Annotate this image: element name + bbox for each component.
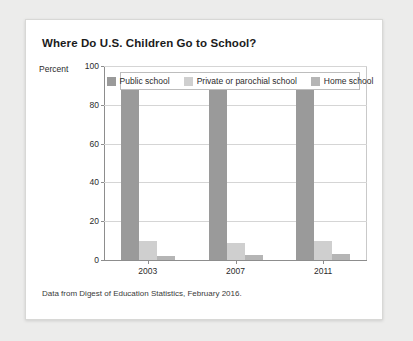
legend-swatch-icon xyxy=(184,77,193,86)
y-axis-title: Percent xyxy=(39,64,68,74)
legend-item-label: Private or parochial school xyxy=(197,76,297,86)
y-axis-tick-mark xyxy=(101,66,104,67)
y-axis-tick-label: 100 xyxy=(85,61,99,71)
x-axis-line xyxy=(104,260,367,261)
bar-group: 2007 xyxy=(209,66,263,260)
plot-area: 020406080100 Public schoolPrivate or par… xyxy=(104,66,367,261)
x-axis-tick-label: 2011 xyxy=(296,266,350,276)
chart-legend: Public schoolPrivate or parochial school… xyxy=(120,72,360,90)
bar[interactable] xyxy=(227,243,245,260)
source-note: Data from Digest of Education Statistics… xyxy=(42,289,242,298)
legend-swatch-icon xyxy=(311,77,320,86)
legend-item-label: Public school xyxy=(120,76,170,86)
x-axis-tick-mark xyxy=(236,261,237,264)
x-axis-tick-label: 2007 xyxy=(209,266,263,276)
bar[interactable] xyxy=(121,89,139,260)
y-axis-tick-label: 60 xyxy=(90,139,99,149)
legend-item[interactable]: Home school xyxy=(311,76,374,86)
y-axis-tick-mark xyxy=(101,144,104,145)
legend-swatch-icon xyxy=(107,77,116,86)
bar-group: 2003 xyxy=(121,66,175,260)
x-axis-tick-mark xyxy=(323,261,324,264)
chart-card: Where Do U.S. Children Go to School? Per… xyxy=(25,19,383,320)
page-title: Where Do U.S. Children Go to School? xyxy=(42,37,256,49)
y-axis-tick-mark xyxy=(101,182,104,183)
x-axis-tick-mark xyxy=(148,261,149,264)
bar[interactable] xyxy=(139,241,157,260)
bar-group: 2011 xyxy=(296,66,350,260)
y-axis-tick-mark xyxy=(101,105,104,106)
y-axis-tick-label: 20 xyxy=(90,216,99,226)
legend-item[interactable]: Public school xyxy=(107,76,170,86)
y-axis-tick-label: 40 xyxy=(90,177,99,187)
y-axis-tick-label: 80 xyxy=(90,100,99,110)
page-background: Where Do U.S. Children Go to School? Per… xyxy=(0,0,413,341)
y-axis-tick-label: 0 xyxy=(94,255,99,265)
bar[interactable] xyxy=(296,89,314,260)
bar[interactable] xyxy=(209,89,227,260)
x-axis-tick-label: 2003 xyxy=(121,266,175,276)
legend-item-label: Home school xyxy=(324,76,374,86)
legend-item[interactable]: Private or parochial school xyxy=(184,76,297,86)
bar[interactable] xyxy=(314,241,332,260)
y-axis-tick-mark xyxy=(101,221,104,222)
